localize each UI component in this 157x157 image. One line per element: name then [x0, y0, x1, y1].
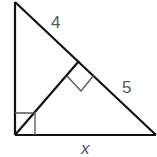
label-4: 4 — [51, 13, 60, 32]
label-5: 5 — [122, 78, 131, 97]
label-x: x — [80, 139, 90, 157]
right-triangle-diagram: 4 5 x — [0, 0, 157, 157]
altitude — [15, 61, 79, 135]
hypotenuse — [15, 2, 156, 135]
right-angle-marker-altitude — [67, 75, 94, 91]
